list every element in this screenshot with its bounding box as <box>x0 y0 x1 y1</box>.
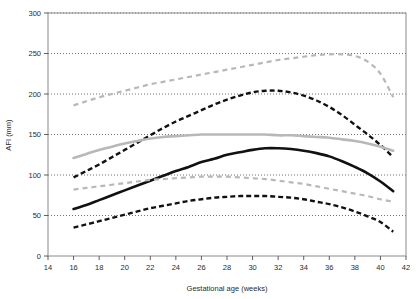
x-tick-label-16: 16 <box>69 263 77 272</box>
y-tick-label-250: 250 <box>28 49 41 58</box>
y-tick-label-200: 200 <box>28 90 41 99</box>
x-tick-label-14: 14 <box>44 263 52 272</box>
x-tick-label-34: 34 <box>300 263 308 272</box>
x-axis-ticks <box>48 256 406 260</box>
x-axis-title: Gestational age (weeks) <box>187 284 268 293</box>
y-axis-tick-labels: 050100150200250300 <box>28 9 41 261</box>
x-tick-label-22: 22 <box>146 263 154 272</box>
x-tick-label-20: 20 <box>121 263 129 272</box>
x-tick-label-26: 26 <box>197 263 205 272</box>
x-tick-label-24: 24 <box>172 263 180 272</box>
y-tick-label-300: 300 <box>28 9 41 18</box>
x-tick-label-28: 28 <box>223 263 231 272</box>
y-tick-label-0: 0 <box>37 252 41 261</box>
x-axis-tick-labels: 141618202224262830323436384042 <box>44 263 410 272</box>
y-tick-label-150: 150 <box>28 130 41 139</box>
y-axis-title: AFI (mm) <box>4 119 13 151</box>
y-tick-label-50: 50 <box>33 211 41 220</box>
y-axis-ticks <box>44 13 48 256</box>
x-tick-label-42: 42 <box>402 263 410 272</box>
x-tick-label-18: 18 <box>95 263 103 272</box>
x-tick-label-38: 38 <box>351 263 359 272</box>
x-tick-label-32: 32 <box>274 263 282 272</box>
x-tick-label-40: 40 <box>376 263 384 272</box>
y-tick-label-100: 100 <box>28 171 41 180</box>
x-tick-label-30: 30 <box>248 263 256 272</box>
x-tick-label-36: 36 <box>325 263 333 272</box>
chart-canvas: 141618202224262830323436384042 050100150… <box>0 0 420 299</box>
afi-gestational-age-chart: 141618202224262830323436384042 050100150… <box>0 0 420 299</box>
